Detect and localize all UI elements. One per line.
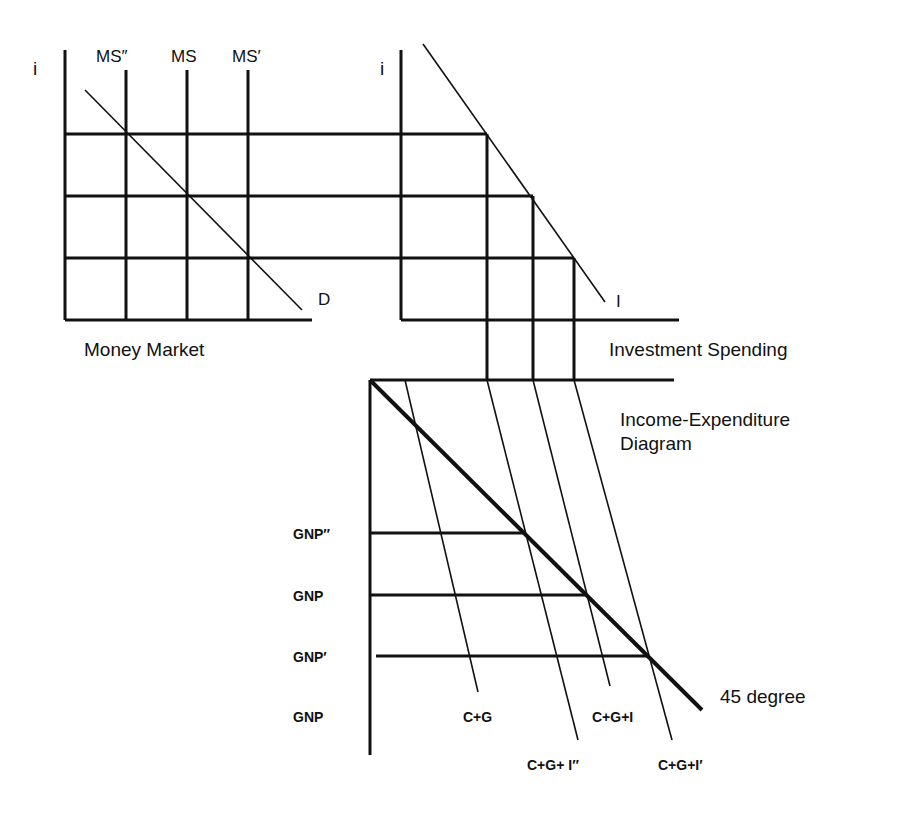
investment-panel: i I Investment Spending (380, 44, 788, 380)
income-title-line2: Diagram (620, 433, 692, 454)
cg-line (405, 380, 478, 692)
investment-y-label: i (380, 58, 384, 79)
investment-demand-curve (423, 44, 605, 302)
ms-double-prime-label: MS″ (96, 47, 128, 66)
gnp-double-prime-label: GNP″ (293, 526, 330, 542)
gnp-prime-label: GNP′ (293, 649, 327, 665)
money-market-panel: i MS″ MS MS′ D Money Market (33, 47, 574, 360)
investment-title: Investment Spending (609, 339, 788, 360)
is-lm-diagram: i MS″ MS MS′ D Money Market i I Investme… (0, 0, 899, 821)
cgi-label: C+G+I (592, 709, 633, 725)
money-demand-curve (85, 90, 302, 310)
cgi-double-prime-label: C+G+ I″ (527, 757, 579, 773)
cgi-prime-label: C+G+I′ (658, 757, 703, 773)
income-title-line1: Income-Expenditure (620, 409, 790, 430)
gnp-label: GNP (293, 588, 323, 604)
gnp-axis-label: GNP (293, 709, 323, 725)
income-expenditure-panel: Income-Expenditure Diagram GNP″ GNP GNP′… (293, 380, 806, 773)
demand-label: D (318, 290, 330, 309)
cgi-double-prime-line (487, 380, 578, 740)
ms-label: MS (171, 47, 197, 66)
cg-label: C+G (463, 709, 492, 725)
cgi-line (533, 380, 610, 686)
ms-prime-label: MS′ (232, 47, 261, 66)
money-market-y-label: i (33, 58, 37, 79)
investment-curve-label: I (616, 292, 621, 311)
money-market-title: Money Market (84, 339, 205, 360)
forty-five-degree-label: 45 degree (720, 686, 806, 707)
